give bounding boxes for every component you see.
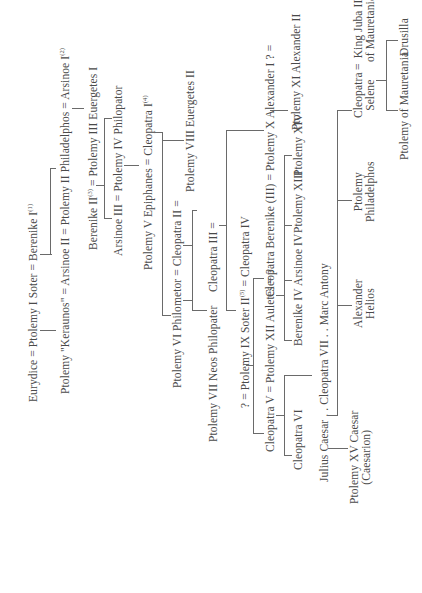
- label-text: Ptolemy Philadelphos: [352, 161, 376, 222]
- connector-line: [337, 200, 352, 201]
- label-text: Alexander Helios: [352, 279, 376, 328]
- connector-line: [50, 168, 51, 255]
- gen8-ptolemy-ix-soter-ii: ? = Ptolemy IX Soter II(5) = Cleopatra I…: [236, 216, 251, 408]
- label-text: ? = Ptolemy IX Soter II: [239, 297, 251, 408]
- gen12-ptolemy-philadelphos: Ptolemy Philadelphos: [352, 161, 376, 222]
- gen12-king-juba-ii: King Juba II of Mauretania: [352, 0, 376, 62]
- connector-line: [40, 330, 56, 331]
- label-text: Cleopatra III =: [207, 222, 219, 292]
- gen13-drusilla: Drusilla: [398, 18, 410, 56]
- connector-line: [284, 155, 285, 340]
- gen6-ptolemy-viii-euergetes-ii: Ptolemy VIII Euergetes II: [184, 70, 196, 192]
- connector-line: [376, 80, 386, 81]
- footnote-marker: (2): [58, 48, 65, 56]
- label-text: Arsinoe III = Ptolemy IV Philopator: [112, 86, 124, 256]
- connector-line: [192, 210, 197, 211]
- label-text: =: [352, 63, 364, 70]
- label-text: Ptolemy V Epiphanes = Cleopatra I: [142, 103, 154, 270]
- label-text: Ptolemy VII Neos Philopater: [207, 306, 219, 442]
- connector-line: [192, 310, 207, 311]
- connector-line: [50, 168, 56, 169]
- connector-line: [183, 300, 192, 301]
- connector-line: [386, 40, 398, 41]
- connector-line: [104, 118, 105, 218]
- label-text: Drusilla: [398, 18, 410, 56]
- gen5-ptolemy-v-epiphanes: Ptolemy V Epiphanes = Cleopatra I(4): [139, 95, 154, 270]
- gen12-ptolemy-xv-caesarion: Ptolemy XV Caesar (Caesarion): [348, 411, 372, 504]
- connector-line: [162, 132, 163, 315]
- connector-line: [226, 130, 227, 310]
- connector-line: [284, 340, 292, 341]
- gen12-alexander-helios: Alexander Helios: [352, 279, 376, 328]
- connector-line: [124, 165, 139, 166]
- connector-line: [276, 295, 284, 296]
- label-text: = Ptolemy III Euergetes I: [87, 67, 99, 189]
- connector-line: [284, 375, 285, 455]
- connector-line: [386, 40, 387, 110]
- gen1-ptolemy-i-soter: Eurydice = Ptolemy I Soter = Berenike I(…: [24, 204, 39, 402]
- footnote-marker: (1): [26, 204, 33, 212]
- gen2-ptolemy-ii-philadelphos: Ptolemy "Keraunos" = Arsinoe II = Ptolem…: [56, 48, 71, 394]
- label-text: Ptolemy of Mauretania: [398, 52, 410, 160]
- connector-line: [104, 118, 112, 119]
- connector-line: [284, 280, 292, 281]
- connector-line: [284, 155, 292, 156]
- gen10-ptolemy-xiv: Ptolemy XIV: [292, 113, 304, 176]
- connector-line: [337, 305, 352, 306]
- connector-line: [253, 278, 254, 433]
- connector-line: [253, 433, 264, 434]
- gen13-ptolemy-of-mauretania: Ptolemy of Mauretania: [398, 52, 410, 160]
- gen10-arsinoe-iv: Arsinoe IV: [292, 234, 304, 286]
- footnote-marker: (5): [238, 289, 245, 297]
- connector-line: [253, 278, 264, 279]
- label-text: Berenike II: [87, 197, 99, 250]
- connector-line: [192, 210, 193, 310]
- gen3-ptolemy-iii-euergetes: Berenike II(3) = Ptolemy III Euergetes I: [84, 67, 99, 250]
- label-text: Ptolemy "Keraunos" = Arsinoe II = Ptolem…: [59, 56, 71, 394]
- label-text: Arsinoe IV: [292, 234, 304, 286]
- label-text: = Cleopatra IV: [239, 216, 251, 289]
- gen10-berenike-iv: Berenike IV: [292, 288, 304, 346]
- connector-line: [96, 185, 104, 186]
- label-text: Ptolemy VI Philometor = Cleopatra II =: [171, 200, 183, 388]
- label-text: Cleopatra Selene: [352, 72, 376, 118]
- connector-line: [162, 315, 171, 316]
- label-text: Eurydice = Ptolemy I Soter = Berenike I: [27, 212, 39, 402]
- connector-line: [226, 130, 264, 131]
- label-text: Ptolemy XIV: [292, 113, 304, 176]
- connector-line: [284, 225, 292, 226]
- connector-line: [284, 375, 312, 376]
- label-text: Cleopatra VI: [292, 409, 304, 470]
- gen12-marriage-sign: =: [352, 63, 364, 70]
- gen6-ptolemy-vi-philometor: Ptolemy VI Philometor = Cleopatra II =: [171, 200, 183, 388]
- label-text: Ptolemy XIII: [292, 171, 304, 233]
- connector-line: [337, 110, 352, 111]
- connector-line: [284, 455, 292, 456]
- connector-line: [276, 415, 284, 416]
- gen11-cleopatra-vii: Julius Caesar . . Cleopatra VII . . Marc…: [318, 263, 330, 482]
- connector-line: [226, 310, 236, 311]
- gen10-cleopatra-vi: Cleopatra VI: [292, 409, 304, 470]
- gen7-cleopatra-iii: Cleopatra III =: [207, 222, 219, 292]
- connector-line: [328, 448, 348, 449]
- gen7-ptolemy-vii-neos-philopater: Ptolemy VII Neos Philopater: [207, 306, 219, 442]
- label-text: King Juba II of Mauretania: [352, 0, 376, 62]
- label-text: Ptolemy VIII Euergetes II: [184, 70, 196, 192]
- connector-line: [386, 110, 398, 111]
- connector-line: [162, 140, 184, 141]
- gen9-ptolemy-x-alexander-i: Cleopatra Berenike (III) = Ptolemy X Ale…: [264, 45, 276, 297]
- footnote-marker: (3): [86, 189, 93, 197]
- connector-line: [104, 218, 112, 219]
- label-text: Ptolemy XV Caesar (Caesarion): [348, 411, 372, 504]
- gen4-ptolemy-iv-philopator: Arsinoe III = Ptolemy IV Philopator: [112, 86, 124, 256]
- connector-line: [328, 415, 338, 416]
- gen12-cleopatra-selene: Cleopatra Selene: [352, 72, 376, 118]
- connector-line: [270, 110, 288, 111]
- connector-line: [337, 110, 338, 415]
- label-text: Cleopatra Berenike (III) = Ptolemy X Ale…: [264, 45, 276, 297]
- label-text: Berenike IV: [292, 288, 304, 346]
- gen10-ptolemy-xiii: Ptolemy XIII: [292, 171, 304, 233]
- connector-line: [72, 108, 84, 109]
- footnote-marker: (4): [141, 95, 148, 103]
- label-text: Julius Caesar . . Cleopatra VII . . Marc…: [318, 263, 330, 482]
